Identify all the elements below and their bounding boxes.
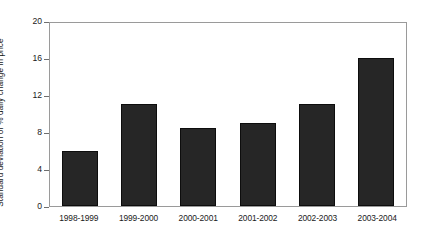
y-tick-label: 4 <box>37 164 42 175</box>
bar-2003-2004 <box>358 58 394 206</box>
bar-2002-2003 <box>299 104 335 206</box>
x-tick-label-1999-2000: 1999-2000 <box>109 213 169 223</box>
bar-1998-1999 <box>62 151 98 207</box>
bar-1999-2000 <box>121 104 157 206</box>
y-tick-16: 16 <box>0 59 49 60</box>
y-tick-label: 12 <box>32 90 42 101</box>
plot-area <box>49 22 407 207</box>
y-tick-mark <box>44 207 49 208</box>
x-axis-tick-labels: 1998-19991999-20002000-20012001-20022002… <box>49 213 407 229</box>
y-tick-label: 16 <box>32 53 42 64</box>
x-tick-label-2001-2002: 2001-2002 <box>228 213 288 223</box>
y-tick-label: 0 <box>37 201 42 212</box>
y-tick-4: 4 <box>0 170 49 171</box>
bar-chart-figure: Standard deviation of % daily change in … <box>0 0 427 245</box>
x-tick-label-2003-2004: 2003-2004 <box>347 213 407 223</box>
y-tick-label: 8 <box>37 127 42 138</box>
bar-series <box>50 23 406 206</box>
y-tick-label: 20 <box>32 16 42 27</box>
x-tick-label-2002-2003: 2002-2003 <box>288 213 348 223</box>
y-axis-title: Standard deviation of % daily change in … <box>0 0 18 245</box>
x-tick-label-1998-1999: 1998-1999 <box>49 213 109 223</box>
y-tick-12: 12 <box>0 96 49 97</box>
y-tick-20: 20 <box>0 22 49 23</box>
x-tick-label-2000-2001: 2000-2001 <box>168 213 228 223</box>
bar-2001-2002 <box>240 123 276 206</box>
y-tick-0: 0 <box>0 207 49 208</box>
y-tick-8: 8 <box>0 133 49 134</box>
bar-2000-2001 <box>180 128 216 206</box>
